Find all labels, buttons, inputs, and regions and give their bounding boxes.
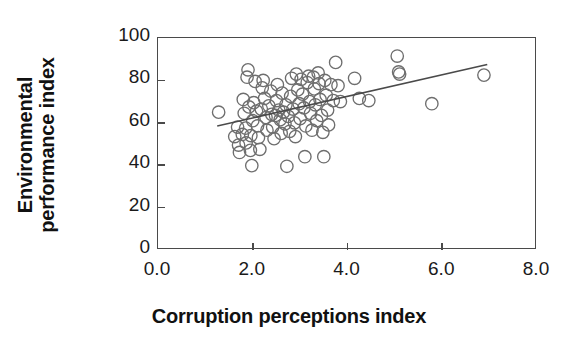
x-axis-tick-mark [347,243,349,250]
data-point [348,72,360,84]
data-point [391,50,403,62]
data-point [242,64,254,76]
y-axis-tick-mark [158,122,165,124]
x-axis-tick-mark [441,243,443,250]
y-axis-title: Environmental performance index [0,0,72,290]
y-axis-title-text: Environmental performance index [14,57,59,233]
scatter-chart-figure: Environmental performance index 02040608… [0,0,578,362]
trendline [217,65,487,126]
y-axis-title-line1: Environmental [14,57,36,233]
x-tick-label: 2.0 [222,258,282,280]
y-axis-title-line2: performance index [36,57,58,233]
data-point [254,143,266,155]
x-tick-label: 6.0 [411,258,471,280]
plot-area [157,37,536,249]
data-point [252,131,264,143]
y-tick-label: 60 [94,109,150,131]
y-axis-tick-mark [158,164,165,166]
data-point [311,114,323,126]
data-point [257,74,269,86]
data-point [332,80,344,92]
x-tick-label: 8.0 [506,258,566,280]
data-point [426,98,438,110]
x-axis-title: Corruption perceptions index [0,305,578,328]
data-points-group [212,50,490,173]
data-point [329,56,341,68]
x-axis-tick-mark [252,243,254,250]
trendline-group [217,65,487,126]
data-point [318,151,330,163]
data-point [281,160,293,172]
data-point [212,106,224,118]
y-tick-label: 20 [94,194,150,216]
x-tick-label: 4.0 [317,258,377,280]
y-tick-label: 80 [94,66,150,88]
data-point [478,69,490,81]
data-point [246,159,258,171]
data-point [299,151,311,163]
y-tick-label: 100 [94,24,150,46]
y-tick-label: 0 [94,236,150,258]
plot-canvas [158,38,537,250]
y-axis-tick-mark [158,207,165,209]
x-tick-label: 0.0 [127,258,187,280]
y-tick-label: 40 [94,151,150,173]
y-axis-tick-mark [158,80,165,82]
